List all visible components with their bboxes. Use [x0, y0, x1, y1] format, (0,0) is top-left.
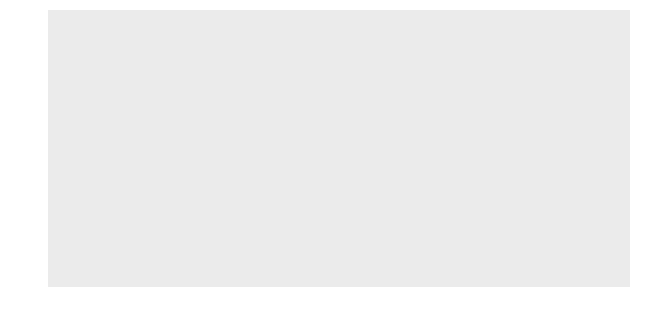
y-axis-tick-labels — [0, 0, 646, 324]
bar-chart — [0, 0, 646, 324]
